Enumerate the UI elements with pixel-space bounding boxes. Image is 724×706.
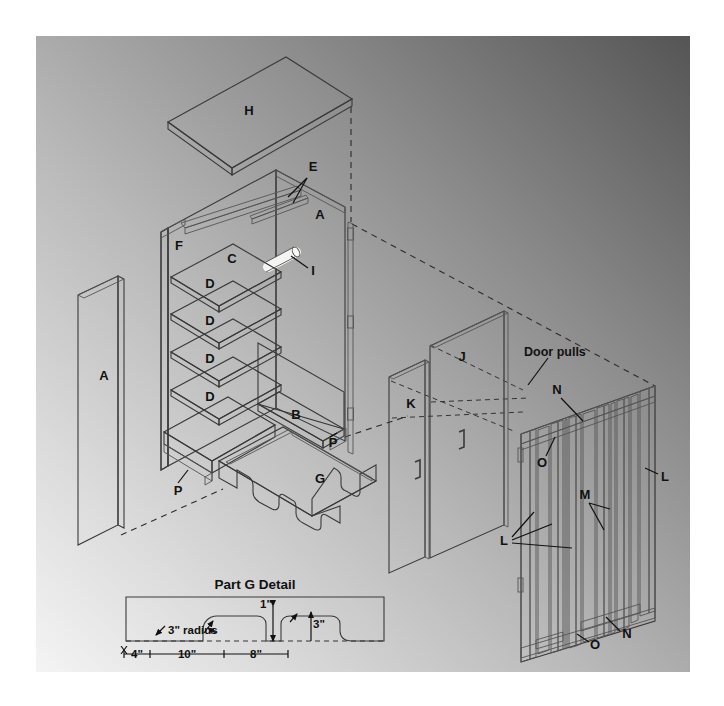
detail-dim-10in: 10" <box>178 648 196 660</box>
part-label-k: K <box>406 396 416 411</box>
part-label-l-right: L <box>661 469 669 484</box>
detail-dim-8in: 8" <box>250 648 262 660</box>
part-label-h: H <box>244 103 253 118</box>
detail-dim-4in: 4" <box>131 648 143 660</box>
diagram-background <box>36 36 690 672</box>
part-label-o-top: O <box>537 455 547 470</box>
part-label-a-left: A <box>99 368 109 383</box>
detail-dim-radius: 3" radius <box>168 624 218 636</box>
part-label-d-4: D <box>205 389 214 404</box>
part-label-c: C <box>227 251 237 266</box>
part-label-d-1: D <box>205 276 214 291</box>
part-label-f: F <box>175 238 183 253</box>
part-label-i: I <box>311 263 315 278</box>
part-label-a-right: A <box>315 207 325 222</box>
part-label-d-3: D <box>205 351 214 366</box>
part-label-p-left: P <box>174 483 183 498</box>
part-label-m: M <box>580 487 591 502</box>
part-g-detail-title: Part G Detail <box>214 577 295 592</box>
door-pulls-annotation: Door pulls <box>524 345 586 359</box>
part-label-b: B <box>291 407 300 422</box>
part-label-n-bottom: N <box>622 626 631 641</box>
detail-dim-notch-radius: 3" <box>313 618 325 630</box>
part-label-j: J <box>458 349 465 364</box>
drawing-sheet: H E A F C I D D D D A B P P G K J N N O … <box>0 0 724 706</box>
part-label-p-right: P <box>329 435 338 450</box>
part-label-d-2: D <box>205 313 214 328</box>
part-label-g: G <box>315 471 325 486</box>
detail-dim-notch-height: 1" <box>260 598 272 610</box>
exploded-assembly-diagram: H E A F C I D D D D A B P P G K J N N O … <box>0 0 724 706</box>
part-label-e: E <box>309 159 318 174</box>
part-label-n-top: N <box>552 382 561 397</box>
part-label-l-group: L <box>500 533 508 548</box>
part-label-o-bottom: O <box>590 637 600 652</box>
